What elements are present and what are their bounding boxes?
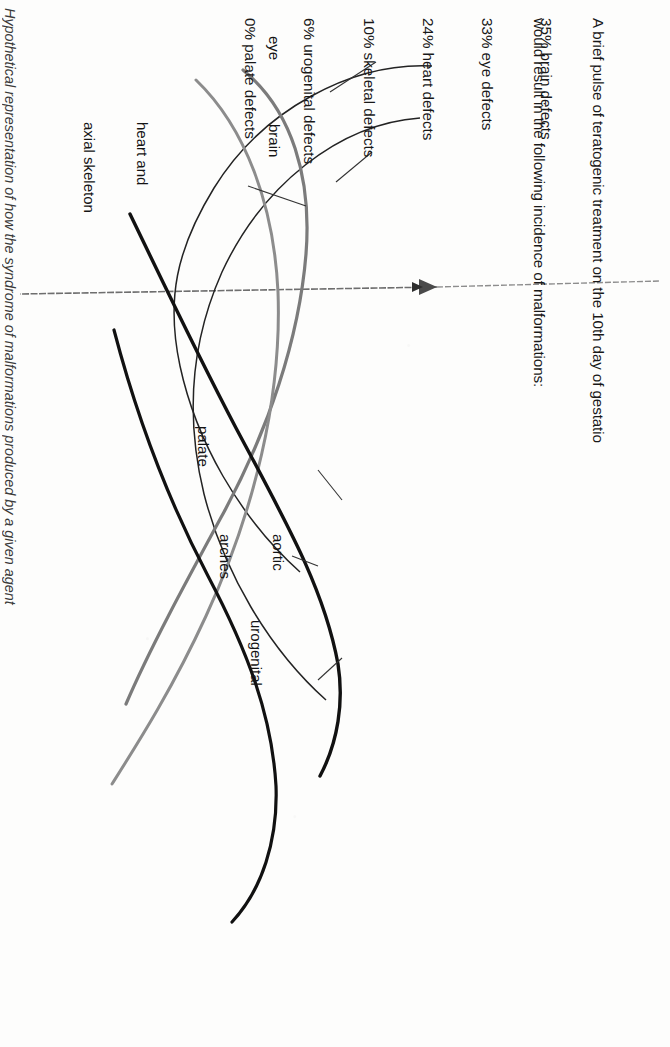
curve-label-text: urogenital xyxy=(247,620,265,686)
figure-caption: Hypothetical representation of how the s… xyxy=(0,8,58,621)
curve-label-heart-axial-skeleton: heart and axial skeleton xyxy=(45,122,187,213)
curve-label-text: eye xyxy=(265,36,283,60)
list-item: 35% brain defects xyxy=(537,18,557,164)
curve-label-eye: eye xyxy=(230,36,318,60)
curve-label-text: aortic xyxy=(269,534,287,579)
curve-label-text: arches xyxy=(216,534,234,579)
curve-label-brain: brain xyxy=(230,124,318,157)
caption-line: Hypothetical representation of how the s… xyxy=(0,8,19,621)
list-item: 24% heart defects xyxy=(418,18,438,164)
curve-label-text: palate xyxy=(194,426,212,467)
curve-label-text: axial skeleton xyxy=(80,122,98,213)
curve-label-urogenital: urogenital xyxy=(212,620,300,686)
curve-label-aortic-arches: aortic arches xyxy=(181,534,323,579)
list-item: 10% skeletal defects xyxy=(359,18,379,164)
curve-label-text: brain xyxy=(265,124,283,157)
curve-label-palate: palate xyxy=(159,426,247,467)
list-item: 33% eye defects xyxy=(478,18,498,164)
scanned-page: A brief pulse of teratogenic treatment o… xyxy=(0,0,670,1047)
curve-label-text: heart and xyxy=(133,122,151,213)
